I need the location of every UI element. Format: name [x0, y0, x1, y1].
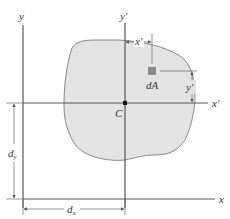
centroid-point [123, 101, 127, 105]
x-prime-dim-label: x′ [134, 35, 143, 47]
parallel-axis-diagram: y x y′ x′ C dA x′ y′ dy dx [0, 0, 230, 219]
y-axis-label: y [18, 10, 24, 22]
element-label: dA [146, 79, 159, 91]
y-prime-dim-label: y′ [185, 81, 194, 93]
y-prime-axis-label: y′ [119, 10, 128, 22]
x-prime-axis-label: x′ [211, 97, 220, 109]
area-shape [64, 40, 195, 160]
area-element [148, 67, 156, 75]
x-axis-label: x [218, 193, 224, 205]
centroid-label: C [115, 107, 123, 119]
